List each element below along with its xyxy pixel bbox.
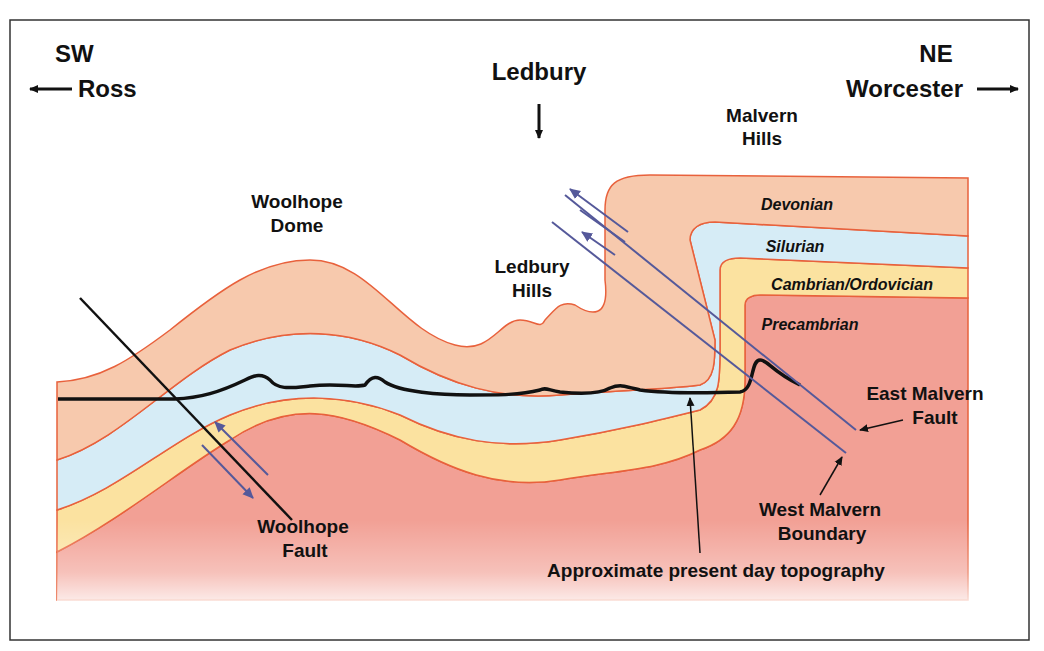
label-malvern-hills-1: Malvern	[726, 105, 798, 126]
direction-ledbury: Ledbury	[492, 58, 587, 85]
label-woolhope-fault-2: Fault	[282, 540, 328, 561]
direction-sw: SW	[55, 40, 94, 67]
label-east-malvern-2: Fault	[912, 407, 958, 428]
direction-worcester: Worcester	[846, 75, 963, 102]
label-topography: Approximate present day topography	[547, 560, 885, 581]
label-woolhope-dome-2: Dome	[271, 215, 324, 236]
label-west-malvern-2: Boundary	[778, 523, 867, 544]
label-malvern-hills-2: Hills	[742, 128, 782, 149]
direction-ne: NE	[919, 40, 952, 67]
stratum-label-cambrian-ordovician: Cambrian/Ordovician	[771, 276, 933, 293]
stratum-label-devonian: Devonian	[761, 196, 833, 213]
label-woolhope-fault-1: Woolhope	[257, 516, 348, 537]
geological-cross-section: SW Ross NE Worcester Ledbury Malvern Hil…	[0, 0, 1044, 651]
label-east-malvern-1: East Malvern	[866, 383, 983, 404]
label-ledbury-hills-2: Hills	[512, 280, 552, 301]
stratum-label-precambrian: Precambrian	[762, 316, 859, 333]
label-woolhope-dome-1: Woolhope	[251, 191, 342, 212]
stratum-label-silurian: Silurian	[766, 238, 825, 255]
label-west-malvern-1: West Malvern	[759, 499, 881, 520]
direction-ross: Ross	[78, 75, 137, 102]
label-ledbury-hills-1: Ledbury	[495, 256, 570, 277]
